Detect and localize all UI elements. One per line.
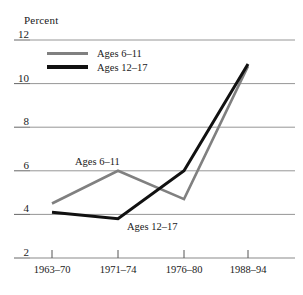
series-line-ages-12-17 [52,64,248,219]
legend-swatch-ages-12-17 [47,65,88,69]
x-tick-label-3: 1988–94 [215,264,281,275]
y-tick-label-6: 6 [11,159,29,171]
y-tick-label-12: 12 [11,28,29,40]
y-tick-label-10: 10 [11,72,29,84]
annotation-1: Ages 12–17 [127,221,177,232]
y-tick-label-8: 8 [11,115,29,127]
x-tick-label-2: 1976–80 [151,264,217,275]
x-tick-label-1: 1971–74 [85,264,151,275]
y-tick-label-4: 4 [11,202,29,214]
legend-swatch-ages-6-11 [47,52,88,55]
legend-label-ages-12-17: Ages 12–17 [97,62,147,73]
series-line-ages-6-11 [52,66,248,203]
chart-container: Percent Ages 6–11 Ages 12–17 12108642 19… [0,0,303,295]
legend-item-ages-12-17: Ages 12–17 [47,60,147,74]
x-tick-label-0: 1963–70 [19,264,85,275]
annotation-0: Ages 6–11 [75,156,120,167]
plot-area [0,0,303,295]
y-tick-label-2: 2 [11,246,29,258]
chart-legend: Ages 6–11 Ages 12–17 [47,46,147,74]
legend-item-ages-6-11: Ages 6–11 [47,46,147,60]
legend-label-ages-6-11: Ages 6–11 [97,48,142,59]
